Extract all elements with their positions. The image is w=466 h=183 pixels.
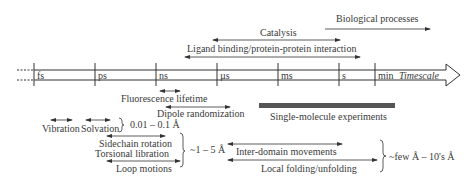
brace-medium bbox=[180, 133, 185, 167]
vibration-label: Vibration bbox=[42, 124, 80, 134]
catalysis-label: Catalysis bbox=[260, 28, 297, 38]
fluorescence-lifetime-label: Fluorescence lifetime bbox=[121, 94, 207, 104]
dipole-randomization-label: Dipole randomization bbox=[157, 109, 244, 119]
tick-us: µs bbox=[220, 71, 230, 81]
tick-min: min bbox=[378, 71, 394, 81]
loop-motions-label: Loop motions bbox=[116, 164, 172, 174]
single-molecule-label: Single-molecule experiments bbox=[270, 112, 387, 122]
tick-fs: fs bbox=[37, 71, 44, 81]
range-large-label: ~few Å – 10's Å bbox=[389, 152, 455, 162]
local-folding-label: Local folding/unfolding bbox=[261, 164, 357, 174]
tick-s: s bbox=[342, 71, 346, 81]
tick-ms: ms bbox=[281, 71, 293, 81]
tick-ps: ps bbox=[98, 71, 107, 81]
torsional-libration-label: Torsional libration bbox=[95, 149, 169, 159]
timescale-label: Timescale bbox=[399, 71, 439, 81]
brace-large bbox=[380, 140, 386, 172]
solvation-label: Solvation bbox=[81, 124, 119, 134]
interdomain-label: Inter-domain movements bbox=[236, 147, 337, 157]
single-molecule-bar bbox=[259, 103, 395, 108]
brace-small bbox=[119, 118, 124, 132]
biological-processes-label: Biological processes bbox=[336, 14, 418, 24]
tick-ns: ns bbox=[159, 71, 168, 81]
ligand-binding-label: Ligand binding/protein-protein interacti… bbox=[187, 44, 356, 54]
range-small-label: 0.01 – 0.1 Å bbox=[130, 120, 180, 130]
range-medium-label: ~1 – 5 Å bbox=[190, 145, 225, 155]
